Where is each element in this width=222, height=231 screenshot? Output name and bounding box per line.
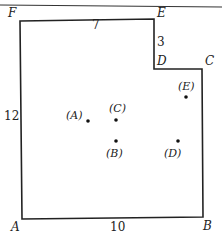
side-length-3: 3: [157, 35, 165, 49]
polygon-outline: [20, 19, 203, 219]
point-dot-e: [184, 95, 188, 99]
point-label-a: (A): [66, 109, 83, 122]
point-dot-c: [114, 118, 118, 122]
point-label-b: (B): [106, 147, 123, 160]
vertex-labels: FEDCBA: [7, 6, 214, 231]
point-dot-b: [114, 139, 118, 143]
point-label-d: (D): [164, 147, 181, 160]
point-dot-d: [176, 139, 180, 143]
top-border-line: [0, 5, 222, 7]
point-dot-a: [86, 119, 90, 123]
candidate-points: (A)(C)(B)(D)(E): [66, 80, 195, 160]
geometry-figure: FEDCBA 731210 (A)(C)(B)(D)(E): [0, 0, 222, 231]
vertex-label-a: A: [10, 220, 20, 231]
vertex-label-d: D: [156, 54, 167, 68]
vertex-label-f: F: [7, 6, 17, 20]
vertex-label-b: B: [202, 219, 212, 231]
vertex-label-c: C: [205, 54, 214, 68]
side-length-12: 12: [4, 109, 19, 123]
point-label-e: (E): [178, 80, 195, 93]
side-length-7: 7: [92, 18, 100, 32]
vertex-label-e: E: [156, 6, 166, 20]
side-length-10: 10: [110, 220, 125, 231]
side-length-labels: 731210: [4, 18, 165, 231]
point-label-c: (C): [109, 102, 126, 115]
